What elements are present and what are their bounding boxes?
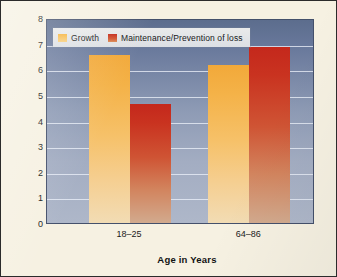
x-axis-tick-labels: 18–2564–86 [46,229,314,243]
x-tick-label: 64–86 [236,229,261,239]
bar-maintenance-2 [249,47,290,223]
legend-swatch-maintenance-icon [108,34,117,42]
y-axis-tick-labels: 012345678 [27,19,43,224]
y-tick-label: 3 [27,143,43,152]
y-tick-label: 4 [27,117,43,126]
plot-area [46,19,314,224]
legend-item-maintenance: Maintenance/Prevention of loss [108,33,243,43]
y-tick-label: 1 [27,194,43,203]
x-axis-title: Age in Years [47,254,327,265]
legend-label-maintenance: Maintenance/Prevention of loss [121,33,243,43]
bar-growth-1 [89,55,130,223]
legend-label-growth: Growth [71,33,99,43]
y-tick-label: 8 [27,15,43,24]
bar-maintenance-1 [130,104,171,223]
y-tick-label: 7 [27,40,43,49]
legend-item-growth: Growth [58,33,99,43]
legend-swatch-growth-icon [58,34,67,42]
y-tick-label: 5 [27,91,43,100]
figure-panel: Mean Rating Across Personal Goals 012345… [0,0,337,277]
legend: Growth Maintenance/Prevention of loss [53,28,250,47]
y-tick-label: 6 [27,66,43,75]
x-tick-label: 18–25 [117,229,142,239]
y-tick-label: 2 [27,168,43,177]
bar-series-group [47,20,313,223]
bar-growth-2 [208,65,249,223]
y-tick-label: 0 [27,220,43,229]
